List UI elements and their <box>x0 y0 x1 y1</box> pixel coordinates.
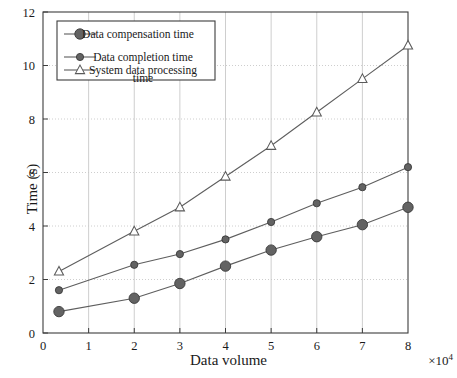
x-axis-multiplier-exponent: 4 <box>449 352 454 362</box>
chart-legend: Data compensation timeData completion ti… <box>57 21 215 84</box>
legend-label: Data completion time <box>93 51 193 64</box>
x-tick-label: 5 <box>268 339 274 353</box>
data-point-marker <box>359 184 366 191</box>
legend-item[interactable]: Data compensation time <box>64 28 194 41</box>
y-tick-label: 0 <box>29 327 35 341</box>
y-tick-label: 10 <box>23 59 36 73</box>
x-axis-multiplier-base: ×10 <box>428 353 448 368</box>
legend-label-continued: time <box>133 72 153 84</box>
data-point-marker <box>54 306 64 316</box>
data-point-marker <box>131 261 138 268</box>
data-point-marker <box>220 261 230 271</box>
line-chart: 024681012 012345678 Data compensation ti… <box>0 0 457 378</box>
x-axis-title: Data volume <box>0 352 457 369</box>
y-tick-label: 6 <box>29 166 35 180</box>
x-tick-label: 1 <box>86 339 92 353</box>
x-tick-label: 0 <box>40 339 46 353</box>
data-point-marker <box>129 293 139 303</box>
data-point-marker <box>312 232 322 242</box>
y-tick-label: 4 <box>29 220 36 234</box>
data-point-marker <box>55 287 62 294</box>
y-tick-label: 2 <box>29 273 35 287</box>
x-tick-label: 2 <box>131 339 137 353</box>
data-point-marker <box>176 250 183 257</box>
x-tick-label: 4 <box>222 339 229 353</box>
y-tick-label: 12 <box>23 6 36 20</box>
data-point-marker <box>404 164 411 171</box>
data-point-marker <box>403 202 413 212</box>
data-point-marker <box>357 219 367 229</box>
x-axis-multiplier: ×104 <box>428 352 453 369</box>
x-tick-label: 6 <box>314 339 320 353</box>
data-point-marker <box>266 245 276 255</box>
x-tick-label: 8 <box>405 339 411 353</box>
y-tick-label: 8 <box>29 113 35 127</box>
data-point-marker <box>313 200 320 207</box>
chart-container: 024681012 012345678 Data compensation ti… <box>0 0 457 378</box>
legend-label: Data compensation time <box>82 28 194 41</box>
data-point-marker <box>222 236 229 243</box>
data-point-marker <box>76 53 83 60</box>
x-tick-label: 7 <box>359 339 365 353</box>
data-point-marker <box>268 218 275 225</box>
x-tick-label: 3 <box>177 339 183 353</box>
data-point-marker <box>175 278 185 288</box>
